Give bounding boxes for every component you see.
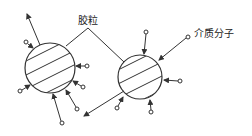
colloid-particle-right [114, 46, 166, 114]
motion-arrow-right [84, 91, 124, 116]
medium-molecule-label: 介质分子 [194, 28, 234, 39]
motion-arrow-left [27, 14, 40, 45]
particle-label-leaders [66, 28, 124, 62]
brownian-motion-diagram: 胶粒 介质分子 [0, 0, 252, 136]
particle-label: 胶粒 [78, 14, 98, 26]
